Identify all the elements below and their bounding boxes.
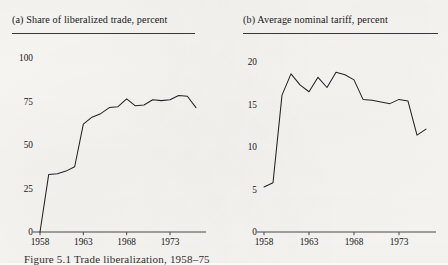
x-axis-tick-label: 1958 [255, 237, 274, 247]
panel-a-plot-area: 02550751001958196319681973 [0, 0, 224, 250]
y-axis-tick-label: 15 [224, 100, 257, 110]
y-axis-tick-label: 0 [0, 227, 33, 237]
chart-panel-a: (a) Share of liberalized trade, percent … [0, 0, 224, 250]
data-series-line [40, 95, 196, 232]
x-axis-tick-label: 1968 [345, 237, 364, 247]
figure-caption: Figure 5.1 Trade liberalization, 1958–75 [24, 253, 210, 265]
x-axis-tick-label: 1963 [300, 237, 319, 247]
y-axis-tick-label: 75 [0, 97, 33, 107]
x-axis-tick-label: 1973 [161, 237, 180, 247]
y-axis-tick-label: 20 [224, 57, 257, 67]
y-axis-tick-label: 100 [0, 53, 33, 63]
y-axis-tick-label: 50 [0, 140, 33, 150]
x-axis-tick-label: 1963 [74, 237, 93, 247]
panel-b-plot-area: 051015201958196319681973 [224, 0, 448, 250]
chart-panel-b: (b) Average nominal tariff, percent 0510… [224, 0, 448, 250]
y-axis-tick-label: 25 [0, 184, 33, 194]
x-axis-tick-label: 1968 [117, 237, 136, 247]
x-axis-tick-label: 1958 [31, 237, 50, 247]
x-axis-tick-label: 1973 [390, 237, 409, 247]
y-axis-tick-label: 0 [224, 227, 257, 237]
y-axis-tick-label: 5 [224, 185, 257, 195]
plot-svg [0, 0, 224, 250]
y-axis-tick-label: 10 [224, 142, 257, 152]
data-series-line [264, 72, 426, 187]
plot-svg [224, 0, 448, 250]
